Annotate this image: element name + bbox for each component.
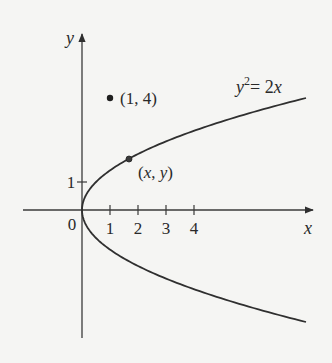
equation-label: y2= 2x — [234, 74, 282, 97]
point-xy-marker — [126, 156, 132, 162]
y-tick-label-1: 1 — [67, 173, 76, 192]
x-axis-label: x — [303, 218, 312, 238]
y-axis-label: y — [64, 28, 74, 48]
x-tick-label-2: 2 — [134, 219, 143, 238]
point-1-4-label: (1, 4) — [120, 89, 157, 108]
point-xy-label: (x, y) — [138, 163, 173, 182]
origin-label: 0 — [68, 215, 77, 234]
x-tick-label-1: 1 — [106, 219, 115, 238]
parabola-figure: 1 2 3 4 1 0 x y (1, 4) (x, y) y2= 2x — [0, 0, 332, 363]
point-1-4-marker — [107, 95, 113, 101]
x-tick-label-4: 4 — [190, 219, 199, 238]
x-tick-label-3: 3 — [162, 219, 171, 238]
